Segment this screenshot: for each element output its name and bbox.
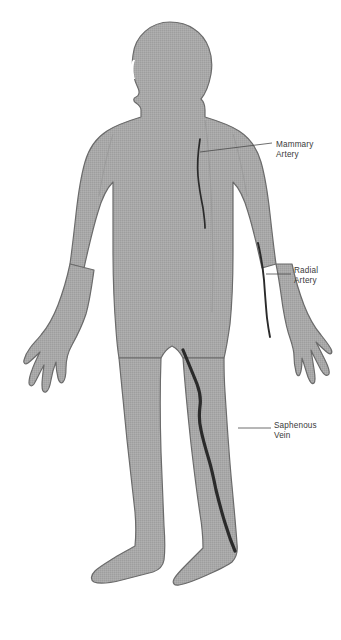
right-leg-and-foot — [91, 358, 164, 583]
mammary-artery-label: Mammary Artery — [276, 140, 313, 161]
mammary-artery-label-line1: Mammary — [276, 140, 313, 150]
mammary-artery-label-line2: Artery — [276, 150, 313, 160]
left-leg-and-foot — [173, 358, 237, 585]
body-figure-svg — [0, 0, 341, 640]
radial-artery-label-line1: Radial — [294, 266, 318, 276]
saphenous-vein-label-line1: Saphenous — [274, 421, 317, 431]
saphenous-vein-label: Saphenous Vein — [274, 421, 317, 442]
radial-artery-label: Radial Artery — [294, 266, 318, 287]
torso-and-legs-shape — [70, 22, 276, 358]
anatomy-diagram: Mammary Artery Radial Artery Saphenous V… — [0, 0, 341, 640]
right-arm-and-hand — [24, 264, 94, 392]
saphenous-vein-label-line2: Vein — [274, 431, 317, 441]
body-silhouette — [24, 22, 332, 585]
radial-artery-label-line2: Artery — [294, 276, 318, 286]
